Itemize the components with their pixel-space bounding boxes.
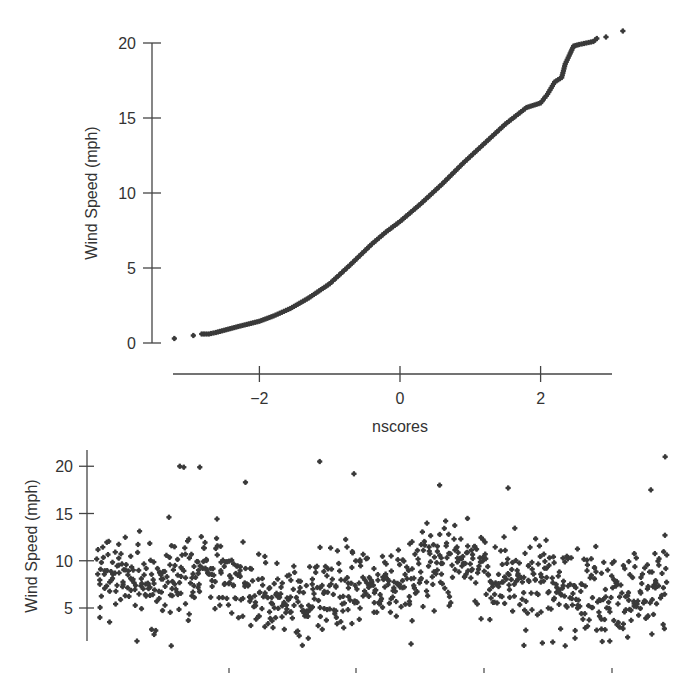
data-point-marker <box>358 563 363 568</box>
data-point-marker <box>168 610 173 615</box>
data-point-marker <box>175 557 180 562</box>
data-point-marker <box>375 578 380 583</box>
data-point-marker <box>320 627 325 632</box>
data-point-marker <box>292 570 297 575</box>
data-point-marker <box>521 590 526 595</box>
data-point-marker <box>310 582 315 587</box>
data-point-marker <box>527 545 532 550</box>
data-point-marker <box>199 534 204 539</box>
data-point-marker <box>530 567 535 572</box>
data-point-marker <box>428 533 433 538</box>
data-point-marker <box>458 536 463 541</box>
data-point-marker <box>625 635 630 640</box>
data-point-marker <box>375 572 380 577</box>
data-point-marker <box>270 625 275 630</box>
data-point-marker <box>556 602 561 607</box>
data-point-marker <box>288 578 293 583</box>
data-point-marker <box>434 560 439 565</box>
data-point-marker <box>450 575 455 580</box>
data-point-marker <box>177 580 182 585</box>
data-point-marker <box>162 584 167 589</box>
data-point-marker <box>136 591 141 596</box>
data-point-marker <box>575 546 580 551</box>
ts-y-ticks: 5101520 <box>55 458 94 617</box>
data-point-marker <box>590 595 595 600</box>
data-point-marker <box>416 561 421 566</box>
data-point-marker <box>95 547 100 552</box>
data-point-marker <box>371 566 376 571</box>
data-point-marker <box>502 601 507 606</box>
data-point-marker <box>208 595 213 600</box>
data-point-marker <box>331 592 336 597</box>
data-point-marker <box>290 616 295 621</box>
data-point-marker <box>210 584 215 589</box>
data-point-marker <box>661 549 666 554</box>
data-point-marker <box>118 597 123 602</box>
data-point-marker <box>651 612 656 617</box>
data-point-marker <box>134 638 139 643</box>
data-point-marker <box>418 569 423 574</box>
data-point-marker <box>341 625 346 630</box>
qq-y-tick-label: 15 <box>118 110 136 127</box>
data-point-marker <box>304 583 309 588</box>
data-point-marker <box>654 601 659 606</box>
data-point-marker <box>432 608 437 613</box>
data-point-marker <box>126 594 131 599</box>
data-point-marker <box>424 588 429 593</box>
data-point-marker <box>229 610 234 615</box>
data-point-marker <box>594 628 599 633</box>
qq-x-ticks: −202 <box>250 366 545 407</box>
data-point-marker <box>437 532 442 537</box>
data-point-marker <box>345 607 350 612</box>
data-point-marker <box>506 582 511 587</box>
data-point-marker <box>186 618 191 623</box>
chart-canvas: 05101520 −202 nscores Wind Speed (mph) 5… <box>0 0 692 673</box>
data-point-marker <box>533 577 538 582</box>
data-point-marker <box>529 607 534 612</box>
data-point-marker <box>273 615 278 620</box>
data-point-marker <box>97 615 102 620</box>
data-point-marker <box>324 618 329 623</box>
data-point-marker <box>420 604 425 609</box>
data-point-marker <box>533 536 538 541</box>
data-point-marker <box>603 587 608 592</box>
data-point-marker <box>572 636 577 641</box>
data-point-marker <box>346 585 351 590</box>
data-point-marker <box>544 575 549 580</box>
data-point-marker <box>97 577 102 582</box>
data-point-marker <box>105 552 110 557</box>
data-point-marker <box>275 576 280 581</box>
data-point-marker <box>570 591 575 596</box>
data-point-marker <box>144 566 149 571</box>
data-point-marker <box>632 564 637 569</box>
data-point-marker <box>316 623 321 628</box>
data-point-marker <box>218 544 223 549</box>
data-point-marker <box>318 614 323 619</box>
data-point-marker <box>537 543 542 548</box>
data-point-marker <box>507 595 512 600</box>
data-point-marker <box>357 617 362 622</box>
data-point-marker <box>421 548 426 553</box>
data-point-marker <box>214 516 219 521</box>
data-point-marker <box>485 564 490 569</box>
data-point-marker <box>212 606 217 611</box>
data-point-marker <box>335 548 340 553</box>
data-point-marker <box>506 485 511 490</box>
data-point-marker <box>484 592 489 597</box>
data-point-marker <box>424 521 429 526</box>
data-point-marker <box>496 572 501 577</box>
data-point-marker <box>243 480 248 485</box>
data-point-marker <box>279 614 284 619</box>
data-point-marker <box>648 487 653 492</box>
data-point-marker <box>191 564 196 569</box>
data-point-marker <box>395 557 400 562</box>
data-point-marker <box>250 578 255 583</box>
data-point-marker <box>529 590 534 595</box>
data-point-marker <box>167 562 172 567</box>
data-point-marker <box>248 623 253 628</box>
data-point-marker <box>415 556 420 561</box>
data-point-marker <box>400 578 405 583</box>
data-point-marker <box>561 579 566 584</box>
data-point-marker <box>582 611 587 616</box>
data-point-marker <box>430 582 435 587</box>
